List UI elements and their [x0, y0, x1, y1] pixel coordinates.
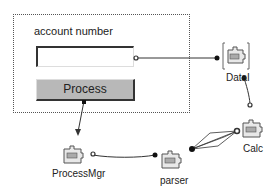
component-icon — [241, 118, 267, 140]
component-icon — [62, 144, 88, 166]
connection-wires — [0, 0, 275, 188]
component-parser[interactable] — [160, 149, 186, 171]
component-icon — [160, 149, 186, 171]
component-datai[interactable] — [222, 41, 250, 71]
component-calc[interactable] — [241, 118, 267, 140]
component-label-datai: DataI — [226, 72, 250, 83]
component-processmgr[interactable] — [62, 144, 88, 166]
component-label-parser: parser — [160, 175, 188, 186]
component-label-calc: Calc — [243, 143, 263, 154]
component-icon — [222, 41, 250, 71]
component-label-processmgr: ProcessMgr — [52, 168, 105, 179]
